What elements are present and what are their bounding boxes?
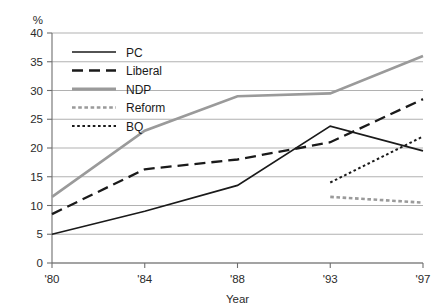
y-tick-labels-group: 4035302520151050 <box>30 27 43 269</box>
series-line-bq <box>330 137 423 183</box>
y-tick-label: 5 <box>37 228 43 240</box>
legend-label-ndp: NDP <box>126 83 151 97</box>
legend-label-bq: BQ <box>126 120 143 134</box>
gridlines-group <box>52 33 423 263</box>
y-tick-label: 20 <box>30 142 43 154</box>
legend-label-liberal: Liberal <box>126 64 162 78</box>
axis-ticks-group <box>47 33 423 268</box>
y-axis-unit-label: % <box>33 14 43 26</box>
y-tick-label: 30 <box>30 85 43 97</box>
x-axis-title: Year <box>226 293 249 305</box>
x-tick-label: '97 <box>416 273 431 285</box>
line-chart: 4035302520151050 '80'84'88'93'97 % Year … <box>0 0 437 305</box>
x-tick-label: '80 <box>45 273 60 285</box>
y-tick-label: 15 <box>30 171 43 183</box>
x-tick-label: '93 <box>323 273 338 285</box>
y-tick-label: 35 <box>30 56 43 68</box>
y-tick-label: 10 <box>30 200 43 212</box>
y-tick-label: 40 <box>30 27 43 39</box>
x-tick-label: '88 <box>230 273 245 285</box>
series-line-ndp <box>52 56 423 197</box>
y-tick-label: 25 <box>30 113 43 125</box>
data-series-group <box>52 56 423 234</box>
legend-label-reform: Reform <box>126 101 165 115</box>
x-tick-labels-group: '80'84'88'93'97 <box>45 273 431 285</box>
x-tick-label: '84 <box>137 273 153 285</box>
series-line-pc <box>52 126 423 234</box>
chart-canvas: 4035302520151050 '80'84'88'93'97 % Year … <box>0 0 437 305</box>
legend-label-pc: PC <box>126 46 143 60</box>
chart-legend: PCLiberalNDPReformBQ <box>72 46 165 134</box>
y-tick-label: 0 <box>37 257 43 269</box>
series-line-reform <box>330 197 423 203</box>
